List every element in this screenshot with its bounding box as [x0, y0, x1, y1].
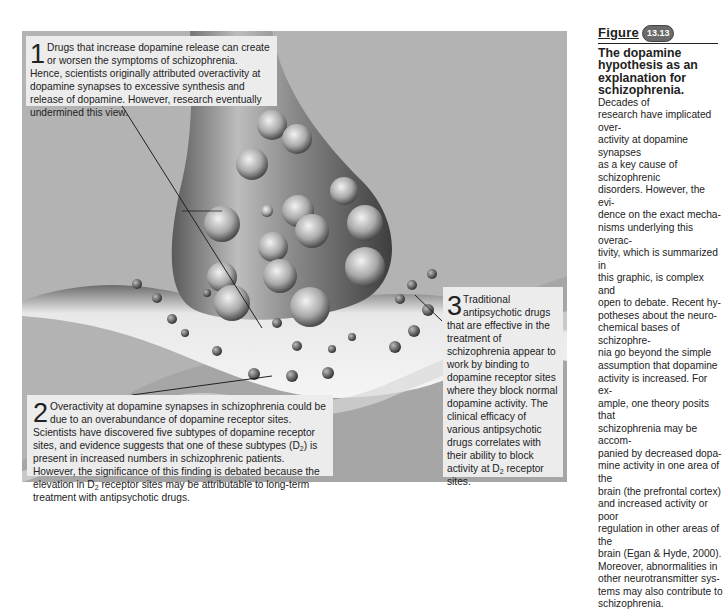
callout-2-text-a: Overactivity at dopamine synapses in sch…	[33, 401, 326, 451]
caption-line: Decades of	[598, 97, 723, 110]
caption-line: chemical bases of schizophre-	[598, 322, 723, 347]
caption-line: research have implicated over-	[598, 109, 723, 134]
caption-line: assumption that dopamine	[598, 360, 723, 373]
callout-3: 3 Traditional antipsychotic drugs that a…	[443, 287, 563, 477]
caption-line: this graphic, is complex and	[598, 272, 723, 297]
caption-line: brain (Egan & Hyde, 2000).	[598, 548, 723, 561]
caption-line: activity at dopamine synapses	[598, 134, 723, 159]
figure-caption-body: Decades ofresearch have implicated over-…	[598, 97, 723, 611]
caption-line: as a key cause of schizophrenic	[598, 159, 723, 184]
figure-number-badge: 13.13	[642, 25, 675, 42]
callout-1: 1 Drugs that increase dopamine release c…	[26, 36, 277, 106]
caption-line: mine activity in one area of the	[598, 460, 723, 485]
callout-2: 2 Overactivity at dopamine synapses in s…	[27, 395, 333, 476]
figure-title: The dopamine hypothesis as an explanatio…	[598, 47, 723, 97]
caption-line: and increased activity or poor	[598, 498, 723, 523]
callout-1-number: 1	[30, 42, 45, 66]
figure-caption: Figure 13.13 The dopamine hypothesis as …	[598, 25, 723, 611]
caption-line: panied by decreased dopa-	[598, 448, 723, 461]
caption-line: tems may also contribute to	[598, 586, 723, 599]
caption-line: potheses about the neuro-	[598, 310, 723, 323]
caption-line: nia go beyond the simple	[598, 347, 723, 360]
figure-heading: Figure 13.13	[598, 25, 718, 44]
callout-3-text-a: Traditional antipsychotic drugs that are…	[447, 294, 557, 474]
callout-2-number: 2	[33, 401, 48, 425]
caption-line: ample, one theory posits that	[598, 398, 723, 423]
caption-line: dence on the exact mecha-	[598, 209, 723, 222]
caption-line: open to debate. Recent hy-	[598, 297, 723, 310]
caption-line: activity is increased. For ex-	[598, 373, 723, 398]
caption-line: schizophrenia.	[598, 598, 723, 611]
caption-line: brain (the prefrontal cortex)	[598, 486, 723, 499]
caption-line: other neurotransmitter sys-	[598, 573, 723, 586]
callout-3-number: 3	[447, 294, 462, 318]
caption-line: Moreover, abnormalities in	[598, 561, 723, 574]
figure-label: Figure	[598, 27, 639, 40]
caption-line: disorders. However, the evi-	[598, 184, 723, 209]
caption-line: regulation in other areas of the	[598, 523, 723, 548]
caption-line: schizophrenia may be accom-	[598, 423, 723, 448]
caption-line: nisms underlying this overac-	[598, 222, 723, 247]
caption-line: tivity, which is summarized in	[598, 247, 723, 272]
